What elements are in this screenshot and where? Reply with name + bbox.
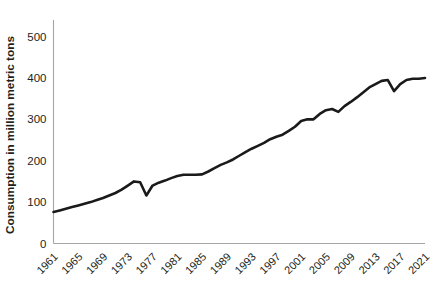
- x-axis-tick-label: 1993: [232, 250, 258, 276]
- y-axis-tick-label: 300: [27, 113, 46, 125]
- x-axis-tick-label: 1965: [59, 250, 85, 276]
- x-axis-tick-label: 1989: [207, 250, 233, 276]
- x-axis-tick-label: 1997: [257, 250, 283, 276]
- x-axis-tick-label: 1969: [84, 250, 110, 276]
- y-axis-tick-label: 200: [27, 155, 46, 167]
- x-axis-tick-label: 1973: [108, 250, 134, 276]
- y-axis-tick-label: 400: [27, 72, 46, 84]
- x-axis-tick-label: 1981: [158, 250, 184, 276]
- x-axis-tick-label: 2005: [307, 250, 333, 276]
- x-axis-tick-label: 2021: [406, 250, 432, 276]
- x-axis-tick-label: 2017: [381, 250, 407, 276]
- x-axis-tick-label: 2009: [331, 250, 357, 276]
- y-axis-tick-label: 500: [27, 31, 46, 43]
- y-axis-title: Consumption in million metric tons: [3, 36, 17, 234]
- line-chart: Consumption in million metric tons 01002…: [0, 0, 435, 294]
- x-axis-tick-label: 1961: [34, 250, 60, 276]
- y-axis-tick-label: 100: [27, 196, 46, 208]
- chart-figure: Consumption in million metric tons 01002…: [0, 0, 435, 294]
- x-axis-tick-label: 1977: [133, 250, 159, 276]
- x-axis-tick-label: 1985: [183, 250, 209, 276]
- x-axis-tick-label: 2001: [282, 250, 308, 276]
- consumption-line-series: [54, 78, 426, 212]
- y-axis-title-group: Consumption in million metric tons: [3, 36, 17, 234]
- x-axis-tick-labels: 1961196519691973197719811985198919931997…: [34, 250, 431, 276]
- x-axis-tick-label: 2013: [356, 250, 382, 276]
- y-axis-tick-label: 0: [40, 238, 46, 250]
- y-axis-tick-labels: 0100200300400500: [27, 31, 46, 250]
